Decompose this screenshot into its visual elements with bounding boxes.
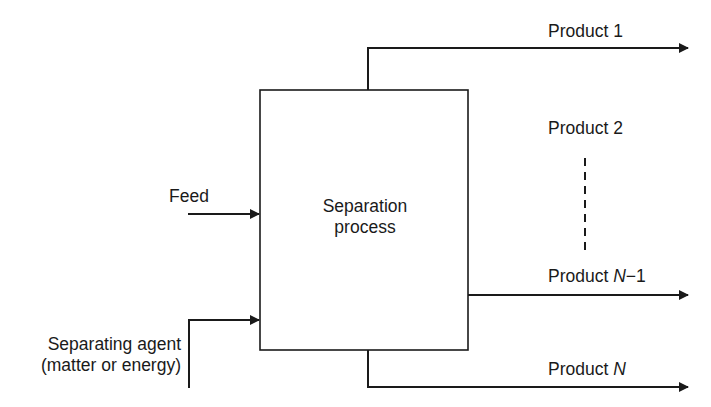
product-n-arrow xyxy=(368,350,688,387)
product-2-label: Product 2 xyxy=(548,118,623,139)
separating-agent-label: Separating agent (matter or energy) xyxy=(0,334,181,376)
product-n-minus-1-label: Product N−1 xyxy=(548,266,646,287)
product-1-arrow xyxy=(368,48,688,90)
product-1-label: Product 1 xyxy=(548,21,623,42)
separating-agent-label-line-2: (matter or energy) xyxy=(0,355,181,376)
product-n-label: Product N xyxy=(548,359,626,380)
process-label-line-2: process xyxy=(300,217,430,238)
feed-label: Feed xyxy=(169,186,209,207)
process-box-label: Separation process xyxy=(300,196,430,238)
separating-agent-label-line-1: Separating agent xyxy=(0,334,181,355)
process-label-line-1: Separation xyxy=(300,196,430,217)
separating-agent-arrow xyxy=(189,320,259,388)
